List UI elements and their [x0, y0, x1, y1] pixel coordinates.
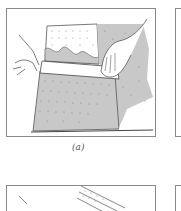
caption-a: (a)	[72, 142, 84, 152]
panel-c	[6, 185, 156, 211]
panel-d	[175, 185, 181, 211]
panel-b	[175, 8, 181, 137]
tearing-illustration	[7, 9, 157, 138]
panel-a	[6, 8, 156, 137]
stippled-strip-illustration	[7, 186, 157, 211]
